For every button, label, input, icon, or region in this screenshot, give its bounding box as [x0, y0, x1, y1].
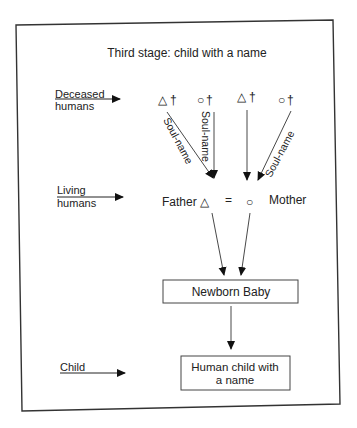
ancestor-3-cross-icon: † [249, 90, 256, 104]
ancestor-4-female-deceased: ○ [278, 93, 285, 107]
newborn-label: Newborn Baby [192, 285, 271, 299]
diagram-title: Third stage: child with a name [107, 46, 267, 60]
label-living-line1: Living [57, 184, 86, 196]
ancestor-2-female-deceased: ○ [197, 93, 204, 107]
father-to-newborn-arrow [212, 213, 224, 275]
ancestor-3-male-deceased: △ [237, 90, 247, 104]
mother-label: Mother [269, 193, 306, 207]
ancestor-4-cross-icon: † [287, 93, 294, 107]
soul-name-label-1: Soul-name [161, 115, 196, 166]
named-child-label-line1: Human child with [191, 361, 279, 373]
label-deceased-line1: Deceased [55, 88, 105, 100]
label-child: Child [60, 361, 85, 373]
mother-symbol: ○ [246, 195, 253, 209]
ancestor-2-cross-icon: † [206, 93, 213, 107]
ancestor-1-male-deceased: △ [158, 93, 168, 107]
marriage-equals: = [225, 193, 232, 207]
father-symbol: △ [200, 195, 210, 209]
outer-frame [16, 20, 340, 411]
soul-name-label-2: Soul-name [200, 111, 212, 162]
label-living-line2: humans [57, 197, 97, 209]
father-label: Father [162, 195, 197, 209]
ancestor-1-cross-icon: † [170, 93, 177, 107]
mother-to-newborn-arrow [241, 213, 250, 275]
named-child-label-line2: a name [216, 374, 254, 386]
diagram-canvas: Third stage: child with a name Deceased … [0, 0, 357, 428]
label-deceased-line2: humans [55, 100, 95, 112]
